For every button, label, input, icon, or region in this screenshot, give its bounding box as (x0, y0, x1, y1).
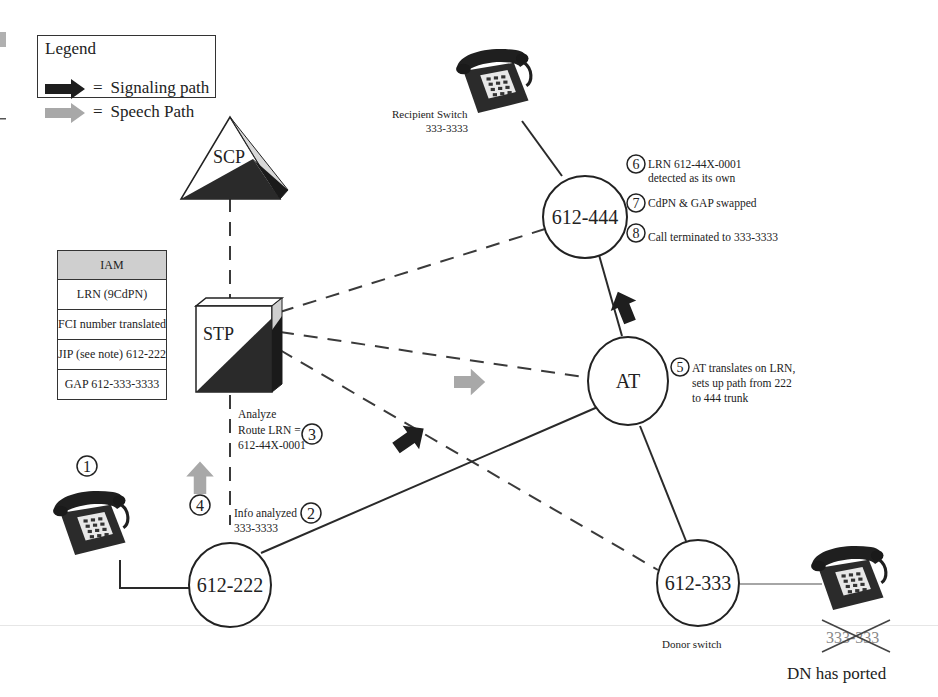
speech-arrow-up (186, 462, 214, 495)
iam-row-fci: FCI number translated (58, 310, 167, 340)
switch-612-333-label: 612-333 (665, 572, 732, 594)
step-2-text-line-1: Info analyzed (234, 507, 297, 520)
switch-at[interactable]: AT (588, 337, 668, 425)
step-4-number: 4 (196, 497, 204, 514)
legend-label-speech: Speech Path (111, 102, 195, 121)
switch-at-label: AT (616, 370, 640, 392)
legend-item-speech: =Speech Path (45, 102, 194, 122)
line-444-phone (522, 121, 562, 176)
step-3-text-line-3: 612-44X-0001 (238, 439, 306, 451)
donor-switch-label: Donor switch (662, 638, 722, 650)
switch-612-444[interactable]: 612-444 (543, 176, 627, 258)
step-5-number: 5 (677, 360, 684, 375)
step-5-text-line-1: AT translates on LRN, (692, 362, 795, 375)
phone-icon-recipient (456, 49, 531, 113)
speech-arrow-right (454, 369, 485, 395)
legend-equals: = (93, 102, 103, 121)
step-5-text-line-3: to 444 trunk (692, 392, 748, 404)
signaling-arrow-icon (45, 79, 87, 99)
edge-artifact (0, 32, 6, 47)
speech-arrow-icon (45, 103, 87, 123)
step-2-number: 2 (307, 505, 315, 522)
recipient-number-label: 333-3333 (426, 122, 469, 134)
step-8-text: Call terminated to 333-3333 (648, 231, 778, 243)
step-5-text-line-2: sets up path from 222 (692, 377, 792, 390)
legend-equals: = (93, 78, 103, 97)
switch-612-444-label: 612-444 (552, 206, 619, 228)
link-stp-612-444 (280, 229, 545, 312)
scp-node[interactable]: SCP (181, 117, 288, 199)
legend: Legend =Signaling path =Speech Path (37, 35, 216, 98)
step-6-text-line-2: detected as its own (648, 172, 735, 184)
step-1-number: 1 (83, 458, 91, 475)
iam-row-lrn: LRN (9CdPN) (58, 280, 167, 310)
edge-artifact (0, 118, 6, 120)
iam-message-table: IAM LRN (9CdPN) FCI number translated JI… (57, 250, 167, 400)
legend-title: Legend (45, 39, 96, 59)
stp-label: STP (203, 324, 234, 344)
dn-ported-label: DN has ported (787, 664, 887, 683)
step-3-text-line-2: Route LRN = (238, 424, 301, 436)
iam-header: IAM (58, 251, 167, 280)
signaling-arrow-up-right (388, 417, 432, 460)
switch-612-333[interactable]: 612-333 (657, 540, 739, 626)
legend-item-signaling: =Signaling path (45, 78, 209, 98)
step-2-text-line-2: 333-3333 (234, 522, 278, 534)
step-6-text-line-1: LRN 612-44X-0001 (648, 158, 742, 170)
iam-row-gap: GAP 612-333-3333 (58, 370, 167, 400)
step-8-number: 8 (633, 226, 640, 241)
stp-node[interactable]: STP (196, 298, 282, 392)
phone-icon-ported (811, 546, 886, 610)
link-stp-at (280, 332, 590, 378)
step-7-number: 7 (633, 196, 640, 211)
switch-612-222-label: 612-222 (197, 574, 264, 596)
trunk-at-333 (640, 426, 686, 541)
step-7-text: CdPN & GAP swapped (648, 197, 757, 210)
line-222-phone (120, 560, 191, 588)
switch-612-222[interactable]: 612-222 (189, 543, 271, 627)
recipient-switch-label: Recipient Switch (392, 108, 468, 120)
step-3-number: 3 (308, 426, 316, 443)
phone-icon-caller (53, 491, 128, 555)
step-6-number: 6 (633, 157, 640, 172)
step-3-text-line-1: Analyze (238, 408, 276, 421)
iam-row-jip: JIP (see note) 612-222 (58, 340, 167, 370)
scp-label: SCP (213, 147, 245, 167)
legend-label-signaling: Signaling path (111, 78, 210, 97)
